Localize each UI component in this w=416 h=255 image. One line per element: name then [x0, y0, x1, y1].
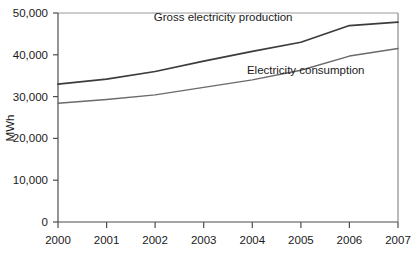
x-tick-label-2005: 2005	[288, 234, 314, 246]
chart-background	[0, 0, 416, 255]
annotation-gross-electricity-production: Gross electricity production	[154, 11, 293, 23]
line-chart: 0 10,000 20,000 30,000 40,000 50,000 MWh…	[0, 0, 416, 255]
y-tick-label-50000: 50,000	[13, 7, 48, 19]
chart-canvas: 0 10,000 20,000 30,000 40,000 50,000 MWh…	[0, 0, 416, 255]
y-tick-label-20000: 20,000	[13, 132, 48, 144]
x-tick-label-2004: 2004	[240, 234, 266, 246]
x-tick-label-2006: 2006	[337, 234, 363, 246]
x-tick-label-2007: 2007	[385, 234, 411, 246]
annotation-electricity-consumption: Electricity consumption	[247, 64, 365, 76]
y-tick-label-30000: 30,000	[13, 91, 48, 103]
y-axis-title: MWh	[4, 115, 16, 142]
x-tick-label-2001: 2001	[94, 234, 120, 246]
x-tick-label-2003: 2003	[191, 234, 217, 246]
y-tick-label-10000: 10,000	[13, 174, 48, 186]
x-tick-label-2000: 2000	[45, 234, 71, 246]
y-tick-label-40000: 40,000	[13, 49, 48, 61]
y-tick-label-0: 0	[42, 216, 48, 228]
x-tick-label-2002: 2002	[142, 234, 168, 246]
